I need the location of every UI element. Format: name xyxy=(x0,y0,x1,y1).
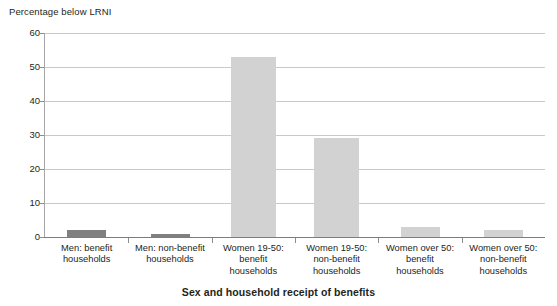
x-tick-label-line: Women 19-50: xyxy=(212,243,295,254)
y-tick-label: 50 xyxy=(6,62,40,72)
x-tick-label-line: households xyxy=(295,266,378,277)
x-tick-label: Women 19-50:non-benefithouseholds xyxy=(295,243,378,277)
bars-layer xyxy=(45,33,545,237)
x-tick-label: Women over 50:benefithouseholds xyxy=(378,243,461,277)
x-tick-label: Men: benefithouseholds xyxy=(45,243,128,266)
bar xyxy=(314,138,359,237)
x-tick-label-line: households xyxy=(45,254,128,265)
y-tick-label: 30 xyxy=(6,130,40,140)
x-tick-label: Women over 50:non-benefithouseholds xyxy=(462,243,545,277)
x-tick-label: Women 19-50:benefithouseholds xyxy=(212,243,295,277)
x-tick-label-line: households xyxy=(462,266,545,277)
y-axis-ticks: 0102030405060 xyxy=(0,0,40,306)
bar xyxy=(401,227,440,237)
x-tick-label: Men: non-benefithouseholds xyxy=(128,243,211,266)
x-tick-label-line: Men: non-benefit xyxy=(128,243,211,254)
bar xyxy=(484,230,523,237)
x-tick-label-line: households xyxy=(212,266,295,277)
x-tick-label-line: Women over 50: xyxy=(378,243,461,254)
bar-chart: Percentage below LRNI 0102030405060 Men:… xyxy=(0,0,557,306)
y-tick-label: 0 xyxy=(6,232,40,242)
y-tick-label: 20 xyxy=(6,164,40,174)
x-axis-category-labels: Men: benefithouseholdsMen: non-benefitho… xyxy=(45,243,545,283)
x-axis-title: Sex and household receipt of benefits xyxy=(0,286,557,298)
x-tick-label-line: Men: benefit xyxy=(45,243,128,254)
x-tick-label-line: benefit xyxy=(378,254,461,265)
y-tick-label: 10 xyxy=(6,198,40,208)
x-tick-label-line: households xyxy=(128,254,211,265)
x-tick-label-line: Women 19-50: xyxy=(295,243,378,254)
x-tick-label-line: non-benefit xyxy=(462,254,545,265)
x-tick-label-line: non-benefit xyxy=(295,254,378,265)
bar xyxy=(67,230,106,237)
y-tick-label: 40 xyxy=(6,96,40,106)
x-tick-label-line: households xyxy=(378,266,461,277)
bar xyxy=(231,57,276,237)
y-tick-label: 60 xyxy=(6,28,40,38)
bar xyxy=(151,234,190,237)
x-tick-label-line: Women over 50: xyxy=(462,243,545,254)
x-tick-label-line: benefit xyxy=(212,254,295,265)
